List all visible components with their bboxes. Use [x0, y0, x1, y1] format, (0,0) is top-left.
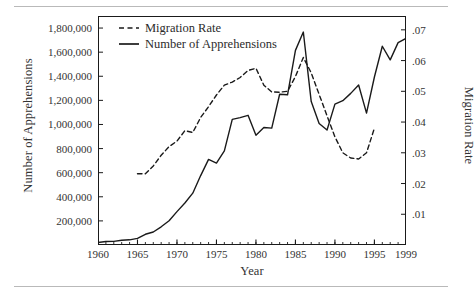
y-axis-left-tick-label: 1,000,000: [48, 118, 92, 130]
y-axis-right-tick-label: .05: [412, 85, 426, 97]
y-axis-right-tick-label: .01: [412, 208, 426, 220]
legend-label-migration-rate: Migration Rate: [145, 21, 221, 36]
y-axis-right-tick-label: .06: [412, 55, 426, 67]
legend-item-migration-rate: Migration Rate: [118, 20, 277, 36]
y-axis-right-tick-label: .03: [412, 147, 426, 159]
dashed-line-icon: [118, 22, 140, 34]
legend-item-number-of-apprehensions: Number of Apprehensions: [118, 36, 277, 52]
solid-line-icon: [118, 38, 140, 50]
x-axis-tick-label: 1965: [126, 248, 148, 260]
series-line-number-of-apprehensions: [98, 32, 406, 242]
x-axis-tick-label: 1970: [166, 248, 188, 260]
y-axis-left-tick-label: 800,000: [56, 143, 92, 155]
y-axis-left-tick-label: 600,000: [56, 167, 92, 179]
x-axis-tick-label: 1975: [205, 248, 227, 260]
y-axis-left-tick-label: 1,800,000: [48, 22, 92, 34]
y-axis-left-tick-label: 1,600,000: [48, 46, 92, 58]
y-axis-left-tick-label: 400,000: [56, 191, 92, 203]
x-axis-tick-label: 1960: [87, 248, 109, 260]
x-axis-tick-label: 1980: [245, 248, 267, 260]
x-axis-tick-label: 1999: [395, 248, 417, 260]
chart-legend: Migration Rate Number of Apprehensions: [118, 20, 277, 52]
y-axis-left-tick-label: 1,200,000: [48, 94, 92, 106]
legend-label-number-of-apprehensions: Number of Apprehensions: [145, 37, 277, 52]
y-axis-right-tick-label: .04: [412, 116, 426, 128]
x-axis-tick-label: 1990: [324, 248, 346, 260]
y-axis-right-title: Migration Rate: [461, 36, 476, 216]
y-axis-right-tick-label: .07: [412, 24, 426, 36]
x-axis-tick-labels: 196019651970197519801985199019951999: [0, 248, 462, 268]
y-axis-right-tick-label: .02: [412, 178, 426, 190]
y-axis-left-tick-label: 200,000: [56, 215, 92, 227]
x-axis-tick-label: 1995: [363, 248, 385, 260]
series-line-migration-rate: [137, 58, 374, 174]
y-axis-left-tick-label: 1,400,000: [48, 70, 92, 82]
x-axis-tick-label: 1985: [284, 248, 306, 260]
